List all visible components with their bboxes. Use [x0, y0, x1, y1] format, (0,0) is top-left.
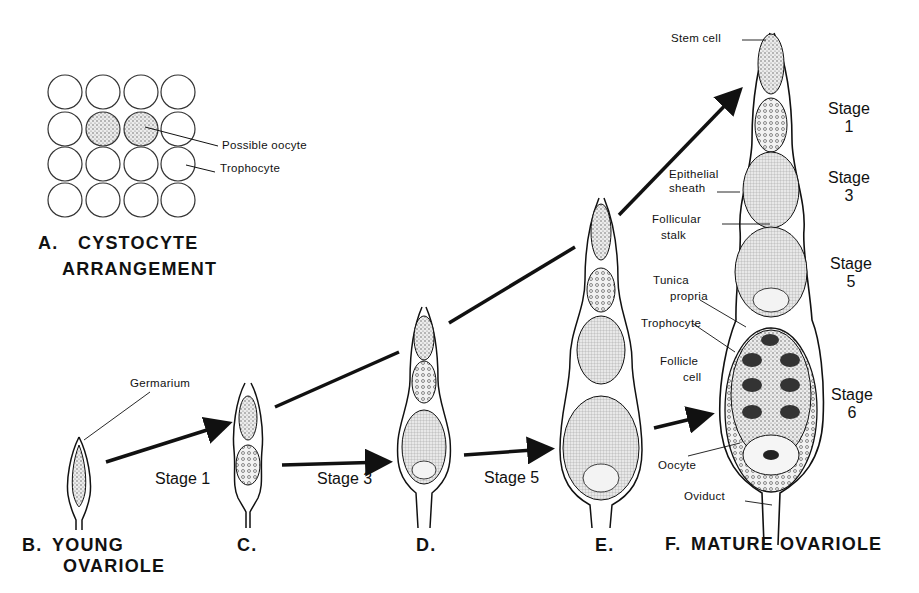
f-stage-5-word: Stage [830, 255, 872, 273]
label-possible-oocyte: Possible oocyte [222, 139, 307, 152]
f-stage-3: Stage 3 [828, 169, 870, 206]
arrow-e-to-f [654, 415, 708, 428]
f-stage-5-num: 5 [830, 273, 872, 291]
label-tunica-2: propria [670, 290, 708, 303]
panel-a-title-1: CYSTOCYTE [78, 233, 199, 254]
panel-f-letter: F. [665, 534, 681, 555]
label-epithelial-2: sheath [669, 182, 705, 195]
f-stage-3-word: Stage [828, 169, 870, 187]
label-stem-cell: Stem cell [671, 32, 721, 45]
label-follicle-2: cell [683, 371, 701, 384]
label-trophocyte-a: Trophocyte [220, 162, 280, 175]
ovariole-c-shape [233, 383, 262, 528]
transition-stage-5: Stage 5 [484, 469, 539, 487]
f-stage-1-word: Stage [828, 100, 870, 118]
label-follicular-2: stalk [661, 229, 686, 242]
cystocyte-grid [48, 75, 195, 217]
arrow-e-to-f-upper [619, 92, 738, 215]
f-stage-1: Stage 1 [828, 100, 870, 137]
label-oviduct: Oviduct [684, 490, 725, 503]
arrow-d-to-e-upper [449, 247, 575, 323]
arrow-d-to-e [464, 449, 548, 455]
f-stage-5: Stage 5 [830, 255, 872, 292]
arrow-c-to-d [282, 462, 386, 465]
ovariole-d-shape [398, 307, 451, 528]
f-stage-6: Stage 6 [831, 386, 873, 423]
panel-d-letter: D. [416, 535, 436, 556]
panel-a-title-2: ARRANGEMENT [62, 259, 217, 280]
label-follicle-1: Follicle [660, 355, 698, 368]
arrow-b-to-c [106, 424, 226, 462]
transition-stage-1: Stage 1 [155, 470, 210, 488]
mature-ovariole-shape [720, 33, 824, 545]
panel-c-letter: C. [237, 535, 257, 556]
panel-f-title: MATURE OVARIOLE [691, 534, 882, 555]
panel-b-title-2: OVARIOLE [63, 556, 165, 577]
transition-stage-3: Stage 3 [317, 470, 372, 488]
arrow-c-to-d-upper [275, 352, 399, 407]
f-stage-1-num: 1 [828, 118, 870, 136]
f-stage-6-num: 6 [831, 404, 873, 422]
panel-b-letter: B. [22, 535, 42, 556]
f-stage-6-word: Stage [831, 386, 873, 404]
label-tunica-1: Tunica [653, 274, 689, 287]
label-oocyte: Oocyte [658, 459, 696, 472]
f-stage-3-num: 3 [828, 187, 870, 205]
panel-a-letter: A. [38, 233, 58, 254]
panel-e-letter: E. [595, 535, 614, 556]
label-epithelial-1: Epithelial [669, 168, 719, 181]
panel-b-title-1: YOUNG [52, 535, 124, 556]
ovariole-development-diagram: Possible oocyte Trophocyte A. CYSTOCYTE … [0, 0, 919, 593]
label-trophocyte-f: Trophocyte [641, 317, 701, 330]
label-germarium: Germarium [130, 377, 190, 390]
label-follicular-1: Follicular [652, 213, 701, 226]
